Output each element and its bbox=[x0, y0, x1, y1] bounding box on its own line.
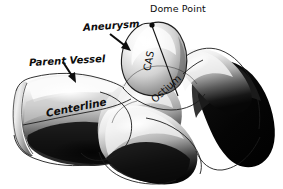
aneurysm-illustration: Dome Point Aneurysm Parent Vessel Center… bbox=[0, 0, 283, 189]
vessel-aneurysm-artwork bbox=[0, 0, 283, 189]
dome-point-marker bbox=[149, 22, 154, 27]
label-dome-point: Dome Point bbox=[150, 4, 206, 14]
